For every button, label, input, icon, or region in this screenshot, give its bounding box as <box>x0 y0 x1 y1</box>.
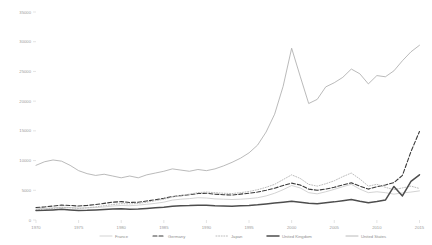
x-tick-label: 2005 <box>330 225 340 230</box>
series-line-germany <box>36 131 419 207</box>
legend-label-united-kingdom[interactable]: United Kingdom <box>282 234 312 239</box>
series-line-united-states <box>36 45 419 178</box>
x-tick-label: 2000 <box>287 225 297 230</box>
chart-canvas: 05000100001500020000250003000035000 1970… <box>0 0 432 245</box>
legend-label-france[interactable]: France <box>115 234 129 239</box>
plot-series-group <box>36 45 419 210</box>
y-tick-label: 0 <box>29 218 32 223</box>
y-tick-label: 30000 <box>19 39 31 44</box>
y-tick-label: 25000 <box>19 69 31 74</box>
line-chart: 05000100001500020000250003000035000 1970… <box>0 0 432 245</box>
y-tick-label: 5000 <box>22 188 32 193</box>
x-tick-label: 1985 <box>159 225 169 230</box>
y-tick-label: 10000 <box>19 158 31 163</box>
x-tick-label: 1980 <box>117 225 127 230</box>
x-tick-label: 1990 <box>202 225 212 230</box>
y-tick-label: 35000 <box>19 10 31 15</box>
legend-label-japan[interactable]: Japan <box>231 234 243 239</box>
x-tick-label: 2015 <box>415 225 425 230</box>
y-tick-label: 20000 <box>19 99 31 104</box>
x-axis-ticks: 1970197519801985199019952000200520102015 <box>31 220 424 230</box>
y-axis-ticks: 05000100001500020000250003000035000 <box>19 10 36 223</box>
legend-label-germany[interactable]: Germany <box>168 234 186 239</box>
chart-legend: FranceGermanyJapanUnited KingdomUnited S… <box>100 234 386 239</box>
y-tick-label: 15000 <box>19 128 31 133</box>
x-tick-label: 2010 <box>372 225 382 230</box>
x-tick-label: 1975 <box>74 225 84 230</box>
x-tick-label: 1995 <box>244 225 254 230</box>
legend-label-united-states[interactable]: United States <box>361 234 386 239</box>
x-tick-label: 1970 <box>31 225 41 230</box>
